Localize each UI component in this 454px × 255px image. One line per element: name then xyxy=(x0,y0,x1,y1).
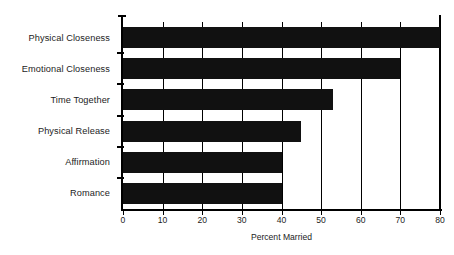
bar-affirmation xyxy=(123,152,282,173)
bar-row xyxy=(123,178,440,209)
bar-row xyxy=(123,84,440,115)
bar-emotional-closeness xyxy=(123,58,400,79)
bar-row xyxy=(123,22,440,53)
x-tick-label-60: 60 xyxy=(356,215,366,225)
bar-row xyxy=(123,147,440,178)
y-axis-label-emotional-closeness: Emotional Closeness xyxy=(0,53,116,84)
y-axis-top-cap xyxy=(118,15,126,17)
x-axis-tick-labels: 01020304050607080 xyxy=(123,215,440,229)
bar-romance xyxy=(123,183,282,204)
y-axis-label-physical-closeness: Physical Closeness xyxy=(0,22,116,53)
bar-row xyxy=(123,53,440,84)
bar-physical-release xyxy=(123,121,301,142)
plot-area xyxy=(123,22,440,209)
y-axis-label-time-together: Time Together xyxy=(0,84,116,115)
x-tick-label-80: 80 xyxy=(435,215,445,225)
y-axis-category-labels: Physical Closeness Emotional Closeness T… xyxy=(0,22,116,209)
x-tick-label-70: 70 xyxy=(396,215,406,225)
x-tick-label-10: 10 xyxy=(158,215,168,225)
y-axis-label-romance: Romance xyxy=(0,178,116,209)
x-tick-label-30: 30 xyxy=(237,215,247,225)
x-tick-label-0: 0 xyxy=(121,215,126,225)
x-tick-label-40: 40 xyxy=(277,215,287,225)
bar-physical-closeness xyxy=(123,27,440,48)
bar-time-together xyxy=(123,89,333,110)
bar-series xyxy=(123,22,440,209)
y-axis-label-affirmation: Affirmation xyxy=(0,147,116,178)
x-tick-label-50: 50 xyxy=(316,215,326,225)
bar-chart: Physical Closeness Emotional Closeness T… xyxy=(0,0,454,255)
x-tick-label-20: 20 xyxy=(197,215,207,225)
bar-row xyxy=(123,116,440,147)
y-axis-label-physical-release: Physical Release xyxy=(0,116,116,147)
x-axis-title: Percent Married xyxy=(123,232,440,242)
